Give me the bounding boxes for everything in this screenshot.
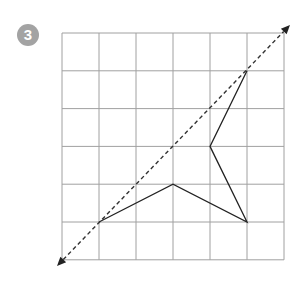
grid-diagram — [0, 0, 306, 281]
